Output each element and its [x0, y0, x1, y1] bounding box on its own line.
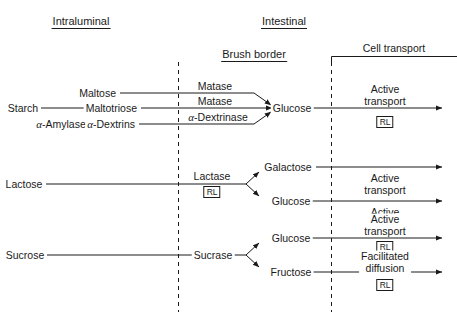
substrate-sucrose: Sucrose — [4, 249, 47, 261]
carbohydrate-digestion-diagram: Intraluminal Intestinal Brush border Cel… — [0, 0, 457, 326]
transport-line-1: Facilitated — [361, 250, 409, 262]
enzyme-maltase-2: Matase — [196, 95, 234, 107]
header-intraluminal: Intraluminal — [52, 15, 111, 29]
header-cell-transport: Cell transport — [361, 42, 427, 54]
arrow-sucrase-to-fructose — [246, 255, 259, 267]
alpha-dextrinase-name: -Dextrinase — [194, 111, 248, 123]
transport-line-1: Active — [371, 213, 400, 225]
rl-badge-lactase: RL — [203, 186, 220, 198]
header-intestinal: Intestinal — [261, 15, 307, 29]
transport-line-2: transport — [364, 224, 405, 236]
transport-line-2: transport — [364, 94, 405, 106]
arrow-sucrase-to-glucose — [246, 243, 259, 255]
arrow-lactase-to-galactose — [246, 172, 259, 184]
enzyme-lactase: Lactase — [192, 170, 233, 182]
transport-starch-glucose: Active transport — [362, 84, 407, 107]
transport-line-2: transport — [364, 183, 405, 195]
transport-line-1: Active — [371, 172, 400, 184]
alpha-amylase-name: -Amylase — [42, 118, 86, 130]
transport-sucrose-glucose: Active transport — [362, 214, 407, 237]
monosaccharide-galactose: Galactose — [262, 161, 313, 173]
enzyme-sucrase: Sucrase — [192, 249, 235, 261]
rl-badge-sucrose-fructose: RL — [376, 279, 393, 291]
enzyme-alpha-amylase: α-Amylase — [34, 118, 88, 130]
substrate-starch: Starch — [6, 102, 40, 114]
header-brush-border: Brush border — [221, 48, 287, 62]
transport-lactose-shared: Active transport — [362, 173, 407, 196]
transport-sucrose-fructose: Facilitated diffusion — [359, 251, 411, 274]
transport-line-1: Active — [371, 83, 400, 95]
substrate-lactose: Lactose — [4, 178, 45, 190]
monosaccharide-glucose-starch: Glucose — [271, 102, 314, 114]
cell-transport-bracket — [332, 57, 457, 63]
arrow-lactase-to-glucose — [246, 184, 259, 196]
monosaccharide-glucose-sucrose: Glucose — [270, 232, 313, 244]
product-maltotriose: Maltotriose — [84, 102, 139, 114]
enzyme-maltase-1: Matase — [196, 80, 234, 92]
transport-line-2: diffusion — [366, 261, 405, 273]
alpha-dextrins-name: -Dextrins — [93, 118, 135, 130]
enzyme-alpha-dextrinase: α-Dextrinase — [186, 111, 249, 123]
monosaccharide-fructose: Fructose — [269, 266, 314, 278]
product-maltose: Maltose — [77, 87, 118, 99]
rl-badge-starch-glucose: RL — [376, 116, 393, 128]
monosaccharide-glucose-lactose: Glucose — [270, 195, 313, 207]
product-alpha-dextrins: α-Dextrins — [85, 118, 137, 130]
